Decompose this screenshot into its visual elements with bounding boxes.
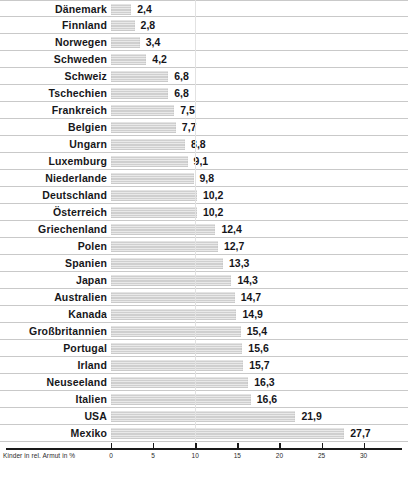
chart-row: Dänemark2,4	[0, 0, 408, 17]
bar-track: 10,2	[111, 204, 408, 221]
bar-track: 4,2	[111, 51, 408, 68]
chart-row: Portugal15,6	[0, 340, 408, 357]
value-label: 27,7	[350, 425, 370, 442]
bar-track: 21,9	[111, 408, 408, 425]
chart-row: Australien14,7	[0, 289, 408, 306]
value-label: 7,5	[180, 102, 195, 119]
value-label: 21,9	[301, 408, 321, 425]
chart-row: Griechenland12,4	[0, 221, 408, 238]
x-tick	[237, 443, 238, 449]
x-tick-label: 15	[227, 452, 247, 459]
value-label: 10,2	[203, 187, 223, 204]
chart-rows: Dänemark2,4Finnland2,8Norwegen3,4Schwede…	[0, 0, 408, 443]
bar-track: 2,4	[111, 1, 408, 18]
value-bar	[111, 54, 146, 65]
country-label: Tschechien	[0, 85, 107, 102]
country-label: Irland	[0, 357, 107, 374]
value-label: 3,4	[146, 34, 161, 51]
country-label: Deutschland	[0, 187, 107, 204]
chart-row: Tschechien6,8	[0, 85, 408, 102]
x-axis: Kinder in rel. Armut in % 051015202530	[0, 443, 408, 468]
country-label: Norwegen	[0, 34, 107, 51]
value-bar	[111, 292, 235, 303]
value-bar	[111, 309, 236, 320]
chart-row: Finnland2,8	[0, 17, 408, 34]
country-label: Frankreich	[0, 102, 107, 119]
chart-row: Schweiz6,8	[0, 68, 408, 85]
value-bar	[111, 394, 251, 405]
country-label: Dänemark	[0, 1, 107, 18]
value-bar	[111, 224, 215, 235]
chart-row: Frankreich7,5	[0, 102, 408, 119]
value-bar	[111, 156, 188, 167]
value-bar	[111, 4, 131, 15]
value-label: 14,7	[241, 289, 261, 306]
x-tick	[322, 443, 323, 449]
country-label: Österreich	[0, 204, 107, 221]
x-tick-label: 10	[185, 452, 205, 459]
chart-row: USA21,9	[0, 408, 408, 425]
country-label: Australien	[0, 289, 107, 306]
value-label: 2,4	[137, 1, 152, 18]
value-label: 16,6	[257, 391, 277, 408]
value-bar	[111, 173, 194, 184]
bar-track: 7,7	[111, 119, 408, 136]
country-label: Luxemburg	[0, 153, 107, 170]
value-bar	[111, 207, 197, 218]
value-label: 13,3	[229, 255, 249, 272]
country-label: USA	[0, 408, 107, 425]
country-label: Finnland	[0, 17, 107, 34]
country-label: Schweiz	[0, 68, 107, 85]
value-bar	[111, 326, 241, 337]
value-bar	[111, 71, 168, 82]
country-label: Portugal	[0, 340, 107, 357]
value-label: 9,8	[200, 170, 215, 187]
value-label: 10,2	[203, 204, 223, 221]
chart-row: Österreich10,2	[0, 204, 408, 221]
x-tick-label: 25	[312, 452, 332, 459]
value-label: 6,8	[174, 68, 189, 85]
value-bar	[111, 139, 185, 150]
x-tick-label: 20	[269, 452, 289, 459]
value-bar	[111, 411, 295, 422]
chart-row: Italien16,6	[0, 391, 408, 408]
chart-row: Norwegen3,4	[0, 34, 408, 51]
country-label: Spanien	[0, 255, 107, 272]
x-tick	[111, 443, 112, 449]
value-label: 14,9	[242, 306, 262, 323]
bar-track: 27,7	[111, 425, 408, 442]
country-label: Italien	[0, 391, 107, 408]
country-label: Neuseeland	[0, 374, 107, 391]
bar-track: 14,9	[111, 306, 408, 323]
bar-track: 2,8	[111, 17, 408, 34]
axis-line	[6, 448, 402, 450]
chart-row: Polen12,7	[0, 238, 408, 255]
country-label: Belgien	[0, 119, 107, 136]
value-label: 9,1	[194, 153, 209, 170]
x-tick	[195, 443, 196, 449]
chart-row: Niederlande9,8	[0, 170, 408, 187]
country-label: Großbritannien	[0, 323, 107, 340]
chart-row: Großbritannien15,4	[0, 323, 408, 340]
x-tick-label: 5	[143, 452, 163, 459]
country-label: Mexiko	[0, 425, 107, 442]
value-bar	[111, 343, 242, 354]
value-label: 7,7	[182, 119, 197, 136]
value-bar	[111, 122, 176, 133]
chart-row: Irland15,7	[0, 357, 408, 374]
value-bar	[111, 88, 168, 99]
bar-track: 12,4	[111, 221, 408, 238]
bar-track: 13,3	[111, 255, 408, 272]
value-bar	[111, 20, 135, 31]
chart-row: Belgien7,7	[0, 119, 408, 136]
chart-row: Deutschland10,2	[0, 187, 408, 204]
value-label: 15,6	[248, 340, 268, 357]
value-bar	[111, 37, 140, 48]
value-label: 2,8	[141, 17, 156, 34]
chart-row: Ungarn8,8	[0, 136, 408, 153]
chart-row: Schweden4,2	[0, 51, 408, 68]
value-label: 14,3	[237, 272, 257, 289]
bar-track: 15,4	[111, 323, 408, 340]
value-bar	[111, 377, 248, 388]
country-label: Kanada	[0, 306, 107, 323]
